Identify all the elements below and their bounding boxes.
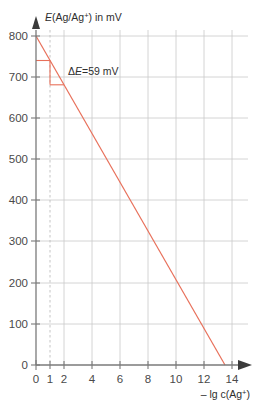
x-axis-title-tail: ) <box>247 388 251 400</box>
delta-e-step-annotation <box>36 61 64 85</box>
y-tick-label-400: 400 <box>9 194 28 206</box>
y-tick-label-0: 0 <box>22 359 28 371</box>
vertical-gridlines <box>64 30 232 365</box>
y-axis-title-rest: (Ag/Ag <box>52 11 84 23</box>
y-tick-label-100: 100 <box>9 318 28 330</box>
y-tick-label-200: 200 <box>9 277 28 289</box>
x-tick-label-4: 4 <box>89 373 96 385</box>
x-tick-label-12: 12 <box>198 373 211 385</box>
y-tick-label-700: 700 <box>9 71 28 83</box>
x-axis-title: – lg c(Ag+) <box>201 388 250 401</box>
delta-e-label: ΔE=59 mV <box>68 65 119 77</box>
x-tick-label-2: 2 <box>61 373 67 385</box>
y-tick-label-300: 300 <box>9 235 28 247</box>
x-tick-labels: 0 1 2 4 6 8 10 12 14 <box>33 373 239 385</box>
x-axis-title-prefix: – lg c(Ag <box>201 388 243 400</box>
x-tick-label-14: 14 <box>226 373 239 385</box>
x-tick-label-0: 0 <box>33 373 39 385</box>
x-tick-label-10: 10 <box>170 373 183 385</box>
horizontal-gridlines <box>36 36 248 324</box>
x-tick-label-1: 1 <box>47 373 53 385</box>
chart-container: ΔE=59 mV 800 700 600 500 400 300 200 <box>0 0 257 402</box>
y-axis-title: E(Ag/Ag+) in mV <box>45 11 122 24</box>
y-tick-label-500: 500 <box>9 153 28 165</box>
y-tick-labels: 800 700 600 500 400 300 200 100 0 <box>9 30 28 371</box>
delta-e-label-rest: =59 mV <box>82 65 118 77</box>
x-axis-arrow-icon <box>238 360 252 370</box>
nernst-line-chart: ΔE=59 mV 800 700 600 500 400 300 200 <box>0 0 257 402</box>
x-tick-label-6: 6 <box>117 373 123 385</box>
y-tick-label-800: 800 <box>9 30 28 42</box>
delta-e-label-delta: Δ <box>68 65 75 77</box>
x-tick-label-8: 8 <box>145 373 151 385</box>
y-tick-label-600: 600 <box>9 112 28 124</box>
y-axis-arrow-icon <box>32 16 40 29</box>
y-axis-title-tail: ) in mV <box>89 11 122 23</box>
